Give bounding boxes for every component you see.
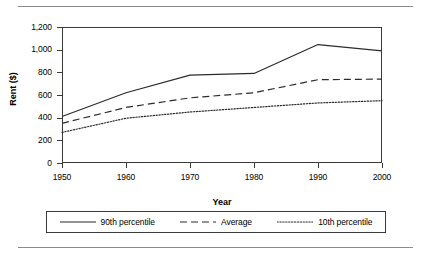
legend-label: Average bbox=[221, 218, 252, 227]
legend-line-swatch-icon bbox=[60, 218, 96, 226]
x-axis-title: Year bbox=[62, 197, 382, 207]
y-tick-text: 0 bbox=[8, 159, 52, 168]
bottom-horizontal-rule bbox=[18, 247, 413, 248]
y-tick-label-1200: 1,200 bbox=[8, 23, 52, 32]
x-tick-mark bbox=[62, 163, 63, 168]
y-tick-label-400: 400 bbox=[8, 113, 52, 122]
x-tick-mark bbox=[318, 163, 319, 168]
y-tick-text: 800 bbox=[8, 68, 52, 77]
plot-lines bbox=[62, 27, 382, 163]
y-tick-label-200: 200 bbox=[8, 136, 52, 145]
y-tick-text: 600 bbox=[8, 91, 52, 100]
series-line-average bbox=[62, 79, 382, 123]
legend-item-average[interactable]: Average bbox=[180, 218, 252, 227]
legend-label: 10th percentile bbox=[318, 218, 372, 227]
series-line-10th-percentile bbox=[62, 101, 382, 133]
x-tick-label-1990: 1990 bbox=[298, 172, 338, 182]
y-tick-text: 400 bbox=[8, 113, 52, 122]
y-tick-label-1000: 1,000 bbox=[8, 45, 52, 54]
y-tick-label-800: 800 bbox=[8, 68, 52, 77]
y-tick-label-600: 600 bbox=[8, 91, 52, 100]
legend-line-swatch-icon bbox=[180, 218, 216, 226]
legend-label: 90th percentile bbox=[101, 218, 155, 227]
y-tick-text: 1,000 bbox=[8, 45, 52, 54]
x-tick-mark bbox=[126, 163, 127, 168]
chart-figure: Rent ($) 1,2001,0008006004002000 1950196… bbox=[0, 0, 431, 255]
y-tick-label-0: 0 bbox=[8, 159, 52, 168]
x-tick-label-1960: 1960 bbox=[106, 172, 146, 182]
x-tick-mark bbox=[190, 163, 191, 168]
legend-item-10th-percentile[interactable]: 10th percentile bbox=[277, 218, 372, 227]
y-tick-text: 1,200 bbox=[8, 23, 52, 32]
legend-line-swatch-icon bbox=[277, 218, 313, 226]
x-tick-label-2000: 2000 bbox=[362, 172, 402, 182]
x-tick-mark bbox=[382, 163, 383, 168]
legend-item-90th-percentile[interactable]: 90th percentile bbox=[60, 218, 155, 227]
x-tick-label-1980: 1980 bbox=[234, 172, 274, 182]
series-line-90th-percentile bbox=[62, 45, 382, 117]
x-tick-label-1970: 1970 bbox=[170, 172, 210, 182]
x-tick-label-1950: 1950 bbox=[42, 172, 82, 182]
top-horizontal-rule bbox=[18, 6, 413, 7]
x-tick-mark bbox=[254, 163, 255, 168]
y-tick-text: 200 bbox=[8, 136, 52, 145]
chart-legend: 90th percentileAverage10th percentile bbox=[46, 211, 386, 233]
